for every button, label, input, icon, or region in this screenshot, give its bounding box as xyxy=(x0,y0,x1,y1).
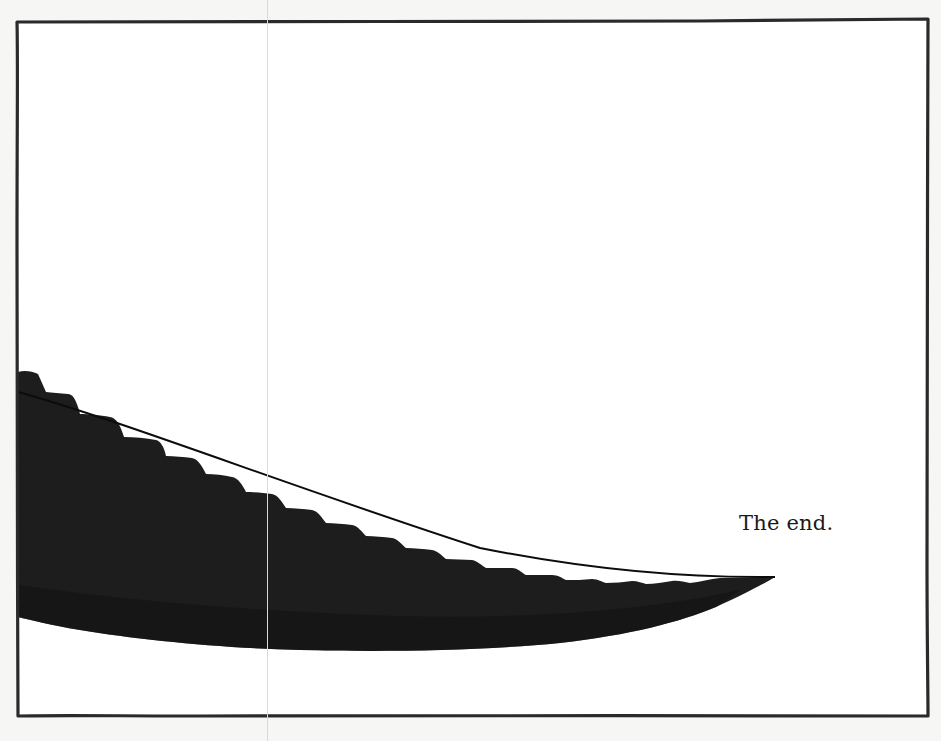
book-page: The end. xyxy=(0,0,941,741)
page-illustration xyxy=(0,0,941,741)
page-gutter-line xyxy=(267,0,268,741)
caption-text: The end. xyxy=(739,511,833,535)
